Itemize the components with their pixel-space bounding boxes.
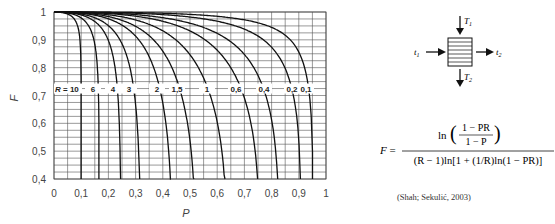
formula-ln: ln <box>438 129 447 141</box>
arrow-down-icon <box>456 28 464 35</box>
arrow-right-icon <box>438 48 446 56</box>
y-axis-label: F <box>8 93 20 101</box>
f-correction-chart: R = 1064321,510,60,40,20,1 00,10,20,30,4… <box>0 0 340 224</box>
hot-outlet-label: T2 <box>464 72 472 83</box>
curve-label: 2 <box>155 85 160 94</box>
y-tick: 0,6 <box>32 118 46 129</box>
y-tick: 0,5 <box>32 146 46 157</box>
cold-inlet-label: t1 <box>414 47 420 58</box>
curve-label: 0,2 <box>286 85 298 94</box>
hot-inlet-label: T1 <box>464 16 472 27</box>
formula-denominator: (R − 1)ln[1 + (1/R)ln(1 − PR)] <box>414 155 543 167</box>
x-tick: 0,9 <box>292 188 306 199</box>
f-formula: F = ln ( 1 − PR 1 − P ) (R − 1)ln[1 + (1… <box>380 120 555 180</box>
x-tick: 1 <box>323 188 329 199</box>
y-tick: 0,9 <box>32 35 46 46</box>
y-axis-ticks: 0,40,50,60,70,80,91 <box>32 7 46 185</box>
x-tick: 0 <box>51 188 57 199</box>
x-tick: 0,7 <box>237 188 251 199</box>
y-tick: 1 <box>40 7 46 18</box>
citation: (Shah; Sekulić, 2003) <box>397 192 471 202</box>
x-tick: 0,1 <box>74 188 88 199</box>
chart-grid <box>54 12 326 179</box>
curve-label: 1,5 <box>171 85 183 94</box>
arrow-down-icon <box>456 80 464 87</box>
arrow-right-icon <box>486 48 494 56</box>
heat-exchanger-diagram: T1 t1 t2 T2 <box>400 14 520 104</box>
curve-label: 0,1 <box>300 85 312 94</box>
formula-lhs: F = <box>380 144 396 156</box>
svg-text:(: ( <box>450 122 457 145</box>
x-tick: 0,6 <box>210 188 224 199</box>
x-tick: 0,5 <box>183 188 197 199</box>
curve-label: 1 <box>205 85 210 94</box>
x-axis-ticks: 00,10,20,30,40,50,60,70,80,91 <box>51 188 329 199</box>
curve-label: 6 <box>91 85 96 94</box>
x-tick: 0,4 <box>156 188 170 199</box>
x-tick: 0,8 <box>265 188 279 199</box>
x-axis-label: P <box>182 207 190 219</box>
x-tick: 0,3 <box>129 188 143 199</box>
curve-label: 0,4 <box>258 85 270 94</box>
y-tick: 0,4 <box>32 174 46 185</box>
curve-label: 0,6 <box>230 85 242 94</box>
curve-label: 3 <box>127 85 132 94</box>
svg-text:): ) <box>494 122 501 145</box>
y-tick: 0,7 <box>32 91 46 102</box>
formula-num-bottom: 1 − P <box>465 136 487 147</box>
formula-num-top: 1 − PR <box>462 122 490 133</box>
y-tick: 0,8 <box>32 63 46 74</box>
cold-outlet-label: t2 <box>496 47 502 58</box>
curve-label: R = 10 <box>55 85 79 94</box>
curve-label: 4 <box>111 85 116 94</box>
x-tick: 0,2 <box>101 188 115 199</box>
